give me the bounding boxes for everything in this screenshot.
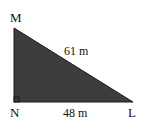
hypotenuse-length-label: 61 m <box>64 44 89 58</box>
vertex-label-n: N <box>10 105 20 120</box>
vertex-label-l: L <box>128 105 136 120</box>
vertex-label-m: M <box>10 10 22 25</box>
base-length-label: 48 m <box>63 106 88 120</box>
right-triangle-diagram: M N L 61 m 48 m <box>0 0 148 124</box>
triangle-shape <box>14 28 133 102</box>
